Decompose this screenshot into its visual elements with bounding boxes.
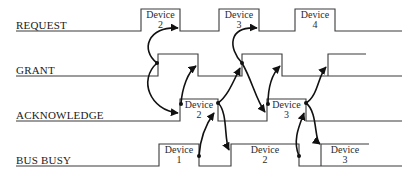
acknowledge-pulse-device-3: Device 3: [267, 100, 306, 120]
device-number: 3: [267, 110, 306, 120]
causal-arrows: [148, 28, 326, 156]
device-number: 3: [321, 155, 369, 165]
device-number: 1: [159, 155, 199, 165]
signal-label-acknowledge: ACKNOWLEDGE: [16, 109, 104, 121]
request-pulse-device-4: Device 4: [295, 10, 335, 30]
device-number: 3: [219, 20, 259, 30]
request-waveform: [16, 9, 402, 31]
grant-waveform: [16, 54, 402, 76]
acknowledge-pulse-device-2: Device 2: [180, 100, 218, 120]
request-pulse-device-2: Device 2: [141, 10, 180, 30]
bus-arbitration-timing-diagram: REQUEST GRANT ACKNOWLEDGE BUS BUSY Devic…: [0, 0, 417, 179]
signal-label-bus-busy: BUS BUSY: [16, 154, 71, 166]
device-number: 2: [231, 155, 299, 165]
bus-busy-pulse-device-1: Device 1: [159, 145, 199, 165]
bus-busy-pulse-device-2: Device 2: [231, 145, 299, 165]
device-number: 4: [295, 20, 335, 30]
device-number: 2: [180, 110, 218, 120]
request-pulse-device-3: Device 3: [219, 10, 259, 30]
signal-label-request: REQUEST: [16, 19, 67, 31]
device-number: 2: [141, 20, 180, 30]
bus-busy-pulse-device-3: Device 3: [321, 145, 369, 165]
signal-label-grant: GRANT: [16, 64, 55, 76]
